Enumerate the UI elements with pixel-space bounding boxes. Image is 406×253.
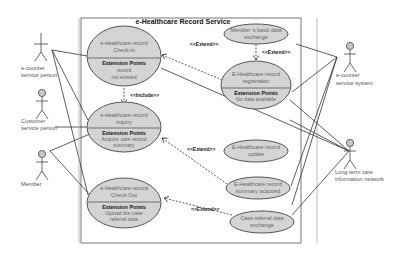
svg-text:E-Healthcare record: E-Healthcare record xyxy=(232,144,280,150)
rel-label-extend-inquiry: <<Extend>> xyxy=(187,146,215,152)
actor-label-ltc-1: Long-term care xyxy=(335,169,373,175)
actor-ecounter-service-person[interactable] xyxy=(34,33,48,61)
svg-text:not existed: not existed xyxy=(111,74,136,80)
svg-text:inquiry: inquiry xyxy=(116,119,132,125)
svg-text:summary: summary xyxy=(113,142,135,148)
actor-label-customer-1: Customer xyxy=(21,118,45,124)
actor-label-ecounter-person-2: service person xyxy=(21,72,57,78)
actor-ecounter-service-system[interactable] xyxy=(344,42,356,72)
svg-text:summary acquired: summary acquired xyxy=(236,188,280,194)
svg-text:No data available: No data available xyxy=(236,96,276,102)
usecase-case-referral-exchange[interactable]: Case referral data exchange xyxy=(230,211,294,233)
rel-label-extend-basic-data: <<Extend>> xyxy=(262,49,290,55)
rel-label-extend-checkout: <<Extend>> xyxy=(191,206,219,212)
usecase-summary-acquired[interactable]: E-Healthcare record summary acquired xyxy=(226,177,290,199)
actor-label-ecounter-system-1: e-counter xyxy=(336,72,360,78)
usecase-checkout[interactable]: e-Healthcare record Check-Out Extension … xyxy=(87,178,161,228)
svg-text:update: update xyxy=(248,151,265,157)
svg-text:Case referral data: Case referral data xyxy=(240,215,283,221)
rel-label-include-inquiry: <<Include>> xyxy=(130,92,159,98)
svg-text:Check-in: Check-in xyxy=(113,47,134,53)
svg-text:e-Healthcare record: e-Healthcare record xyxy=(100,185,148,191)
svg-text:Extension Points: Extension Points xyxy=(102,60,146,66)
svg-text:Check-Out: Check-Out xyxy=(111,192,137,198)
svg-text:record: record xyxy=(117,67,132,73)
svg-text:exchange: exchange xyxy=(250,222,273,228)
rel-label-extend-checkin: <<Extend>> xyxy=(190,41,218,47)
svg-text:exchange: exchange xyxy=(244,34,267,40)
actor-customer-service-person[interactable] xyxy=(36,89,48,119)
svg-text:E-Healthcare record: E-Healthcare record xyxy=(232,71,280,77)
svg-text:Member 's basic data: Member 's basic data xyxy=(230,27,281,33)
svg-text:e-Healthcare record: e-Healthcare record xyxy=(100,40,148,46)
svg-text:referral data: referral data xyxy=(110,216,138,222)
usecase-registration[interactable]: E-Healthcare record registration Extensi… xyxy=(221,61,291,109)
usecase-basic-data-exchange[interactable]: Member 's basic data exchange xyxy=(224,24,288,44)
actor-label-member: Member xyxy=(21,181,42,187)
svg-text:E-Healthcare record: E-Healthcare record xyxy=(234,181,282,187)
svg-text:registration: registration xyxy=(243,78,270,84)
actor-member[interactable] xyxy=(36,150,48,180)
actor-label-ecounter-person-1: e-counter xyxy=(21,65,45,71)
actor-label-customer-2: service person xyxy=(21,125,57,131)
svg-text:e-Healthcare record: e-Healthcare record xyxy=(100,112,148,118)
usecase-inquiry[interactable]: e-Healthcare record inquiry Extension Po… xyxy=(87,102,161,152)
usecase-update[interactable]: E-Healthcare record update xyxy=(224,140,288,162)
usecase-checkin[interactable]: e-Healthcare record Check-in Extension P… xyxy=(87,26,161,86)
system-boundary-title: e-Healthcare Record Service xyxy=(136,18,231,25)
actor-label-ltc-2: information network xyxy=(335,176,384,182)
use-case-diagram: e-Healthcare Record Service <<Extend>> xyxy=(0,0,406,253)
actor-label-ecounter-system-2: service system xyxy=(336,80,373,86)
